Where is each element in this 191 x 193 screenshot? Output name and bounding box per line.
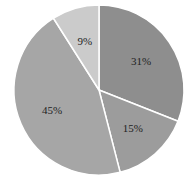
slice-label: 9% [77,35,92,47]
slice-label: 45% [42,104,62,116]
pie-chart: 31%15%45%9% [0,0,191,193]
pie-slices [14,5,184,175]
slice-label: 15% [123,122,143,134]
slice-label: 31% [131,55,151,67]
